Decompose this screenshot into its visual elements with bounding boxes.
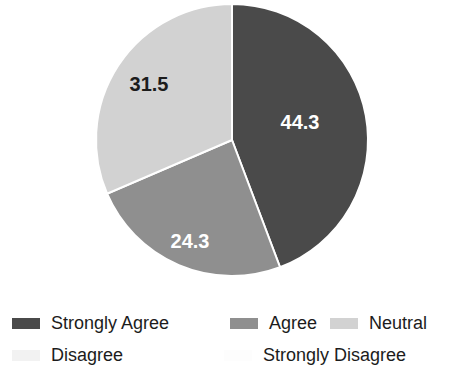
legend-item-disagree[interactable]: Disagree	[12, 346, 123, 364]
legend-swatch-neutral	[330, 318, 358, 329]
legend-item-agree[interactable]: Agree	[230, 314, 317, 332]
legend-row-secondary: Disagree Strongly Disagree	[0, 346, 454, 376]
legend-label-neutral: Neutral	[369, 314, 427, 332]
chart-legend: Strongly Agree Agree Neutral Disagree St…	[0, 306, 454, 382]
legend-item-strongly-disagree[interactable]: Strongly Disagree	[224, 346, 406, 364]
legend-swatch-strongly-agree	[12, 318, 40, 329]
legend-label-strongly-agree: Strongly Agree	[51, 314, 169, 332]
pie-chart-plot-area: 44.324.331.5	[0, 0, 454, 292]
pie-slice-group	[96, 4, 368, 276]
legend-swatch-agree	[230, 318, 258, 329]
pie-chart-figure: 44.324.331.5 Strongly Agree Agree Neutra…	[0, 0, 454, 382]
legend-swatch-strongly-disagree	[224, 350, 252, 361]
legend-item-strongly-agree[interactable]: Strongly Agree	[12, 314, 169, 332]
pie-chart-svg: 44.324.331.5	[0, 0, 454, 292]
pie-value-label-neutral: 31.5	[130, 73, 169, 95]
legend-label-strongly-disagree: Strongly Disagree	[263, 346, 406, 364]
legend-item-neutral[interactable]: Neutral	[330, 314, 427, 332]
pie-value-label-agree: 24.3	[171, 230, 210, 252]
legend-label-disagree: Disagree	[51, 346, 123, 364]
pie-value-label-strongly-agree: 44.3	[281, 111, 320, 133]
legend-row-primary: Strongly Agree Agree Neutral	[0, 314, 454, 344]
legend-label-agree: Agree	[269, 314, 317, 332]
legend-swatch-disagree	[12, 350, 40, 361]
